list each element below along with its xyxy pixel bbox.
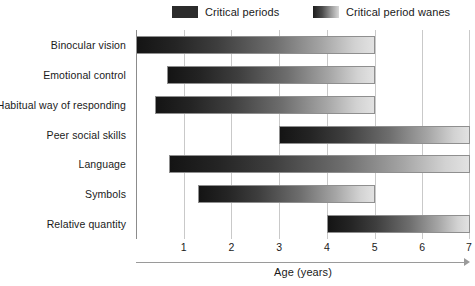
y-label-binocular-vision: Binocular vision	[51, 39, 126, 51]
legend-swatch-gradient-icon	[313, 6, 339, 18]
x-axis-tick-labels: 1 2 3 4 5 6 7	[136, 241, 470, 255]
bar-relative-quantity	[327, 215, 470, 233]
bar-row-language	[136, 149, 470, 179]
legend-item-critical-periods: Critical periods	[172, 6, 279, 18]
plot-area	[136, 30, 470, 239]
bar-row-symbols	[136, 179, 470, 209]
chart-legend: Critical periods Critical period wanes	[0, 6, 475, 26]
bar-row-peer-social-skills	[136, 120, 470, 150]
x-axis-arrowhead-icon	[464, 258, 470, 266]
x-tick-6: 6	[419, 241, 425, 253]
legend-swatch-solid-icon	[172, 6, 198, 18]
x-tick-4: 4	[324, 241, 330, 253]
x-tick-1: 1	[181, 241, 187, 253]
y-label-habitual-way-of-responding: Habitual way of responding	[0, 99, 126, 111]
bar-language	[169, 155, 470, 173]
x-tick-7: 7	[466, 241, 472, 253]
bar-symbols	[198, 185, 375, 203]
y-label-language: Language	[78, 158, 126, 170]
y-label-emotional-control: Emotional control	[43, 69, 126, 81]
y-label-symbols: Symbols	[85, 188, 126, 200]
x-tick-3: 3	[276, 241, 282, 253]
critical-periods-chart: Critical periods Critical period wanes B…	[0, 0, 475, 286]
bar-habitual-way-of-responding	[155, 96, 374, 114]
x-axis-line	[136, 262, 466, 263]
x-tick-2: 2	[229, 241, 235, 253]
legend-item-critical-period-wanes: Critical period wanes	[313, 6, 450, 18]
bar-peer-social-skills	[279, 126, 470, 144]
bar-emotional-control	[167, 66, 375, 84]
legend-label-critical-periods: Critical periods	[205, 6, 279, 18]
y-label-peer-social-skills: Peer social skills	[47, 129, 126, 141]
x-tick-5: 5	[372, 241, 378, 253]
y-axis-labels: Binocular vision Emotional control Habit…	[0, 30, 132, 239]
legend-label-critical-period-wanes: Critical period wanes	[346, 6, 450, 18]
bar-row-emotional-control	[136, 60, 470, 90]
bar-row-habitual-way-of-responding	[136, 90, 470, 120]
y-label-relative-quantity: Relative quantity	[47, 218, 126, 230]
bar-row-binocular-vision	[136, 30, 470, 60]
x-axis-title: Age (years)	[136, 266, 470, 278]
bar-row-relative-quantity	[136, 209, 470, 239]
bar-binocular-vision	[136, 36, 375, 54]
